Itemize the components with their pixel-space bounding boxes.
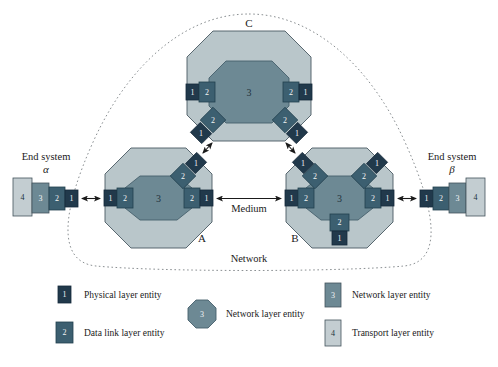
end-system-alpha[interactable]: 4 3 2 1 End system α: [13, 151, 78, 216]
alpha-label: End system: [22, 151, 71, 162]
legend-physical-label: Physical layer entity: [84, 290, 162, 300]
beta-label: End system: [428, 151, 477, 162]
alpha-physical-num: 1: [70, 194, 74, 203]
node-A-network-num: 3: [156, 193, 161, 204]
network-label: Network: [231, 253, 268, 264]
node-A-iface-upperright-datalink-num: 2: [181, 172, 185, 181]
node-B-iface-upperright-datalink-num: 2: [362, 172, 366, 181]
node-C-iface-lowerright-physical-num: 1: [295, 129, 299, 138]
node-C-iface-lowerleft-datalink-num: 2: [211, 116, 215, 125]
node-C-iface-right-physical-num: 1: [304, 88, 308, 97]
network-diagram-svg: Network 3 1 2 2 1 2 1 2: [0, 0, 498, 367]
legend-transport-label: Transport layer entity: [352, 328, 434, 338]
node-A-iface-left-physical-num: 1: [109, 194, 113, 203]
legend-network-rect-label: Network layer entity: [352, 290, 431, 300]
node-C[interactable]: 3 1 2 2 1 2 1 2 1 C: [186, 17, 312, 144]
node-C-iface-lowerleft-physical-num: 1: [199, 129, 203, 138]
legend-datalink-num: 2: [63, 328, 67, 337]
node-C-iface-lowerright-datalink-num: 2: [283, 116, 287, 125]
node-A-iface-left-datalink-num: 2: [123, 194, 127, 203]
legend-transport-num: 4: [331, 329, 335, 338]
beta-network-num: 3: [456, 194, 460, 203]
legend-network-octagon-label: Network layer entity: [226, 309, 305, 319]
node-B-iface-right-physical-num: 1: [386, 194, 390, 203]
node-A-label: A: [198, 232, 206, 244]
legend-item-network-octagon: 3 Network layer entity: [188, 300, 305, 328]
node-C-iface-right-datalink-num: 2: [289, 88, 293, 97]
node-B-iface-bottom-physical-num: 1: [338, 234, 342, 243]
beta-physical-num: 1: [425, 194, 429, 203]
legend-item-transport: 4 Transport layer entity: [325, 320, 434, 346]
node-A-iface-upperright-physical-num: 1: [194, 159, 198, 168]
node-C-network-num: 3: [247, 87, 252, 98]
node-B-iface-upperright-physical-num: 1: [375, 159, 379, 168]
beta-datalink-num: 2: [439, 194, 443, 203]
legend-item-network-rect: 3 Network layer entity: [325, 283, 431, 307]
alpha-network-num: 3: [39, 194, 43, 203]
link-A-to-C: [203, 143, 212, 153]
node-B-iface-right-datalink-num: 2: [371, 194, 375, 203]
node-C-iface-left-physical-num: 1: [191, 88, 195, 97]
node-A[interactable]: 3 1 2 2 1 2 1 A: [104, 148, 213, 248]
diagram-canvas: Network 3 1 2 2 1 2 1 2: [0, 0, 498, 367]
node-B-network-num: 3: [337, 193, 342, 204]
node-C-iface-left-datalink-num: 2: [205, 88, 209, 97]
alpha-transport-num: 4: [21, 193, 25, 202]
link-B-to-C: [286, 143, 295, 153]
beta-symbol: β: [448, 163, 455, 175]
node-B-label: B: [291, 232, 298, 244]
node-B-iface-upperleft-physical-num: 1: [301, 159, 305, 168]
legend-datalink-label: Data link layer entity: [84, 328, 165, 338]
legend-network-rect-num: 3: [331, 291, 335, 300]
node-A-iface-right-physical-num: 1: [205, 194, 209, 203]
alpha-datalink-num: 2: [55, 194, 59, 203]
legend-item-datalink: 2 Data link layer entity: [56, 322, 165, 343]
node-B-iface-left-datalink-num: 2: [304, 194, 308, 203]
legend-physical-num: 1: [63, 290, 67, 299]
legend-network-octagon-num: 3: [200, 310, 204, 319]
node-A-iface-right-datalink-num: 2: [190, 194, 194, 203]
node-B-iface-bottom-datalink-num: 2: [338, 218, 342, 227]
beta-transport-num: 4: [474, 193, 478, 202]
node-B-iface-left-physical-num: 1: [290, 194, 294, 203]
legend: 1 Physical layer entity 2 Data link laye…: [56, 283, 434, 346]
medium-label: Medium: [231, 203, 267, 214]
end-system-beta[interactable]: 1 2 3 4 End system β: [420, 151, 485, 216]
node-B-iface-upperleft-datalink-num: 2: [313, 172, 317, 181]
node-C-label: C: [245, 17, 252, 29]
node-B[interactable]: 3 1 2 2 1 2 1 2 1 2 1: [285, 148, 394, 248]
legend-item-physical: 1 Physical layer entity: [58, 286, 162, 303]
alpha-symbol: α: [43, 163, 49, 175]
